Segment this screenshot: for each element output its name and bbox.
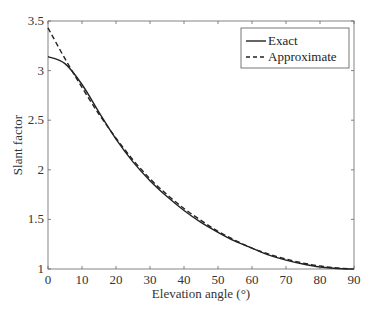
legend-item-exact: Exact	[268, 33, 298, 48]
y-tick-label: 2.5	[28, 112, 44, 127]
x-tick-label: 70	[280, 272, 293, 287]
x-tick-label: 80	[314, 272, 327, 287]
y-tick-label: 2	[38, 162, 45, 177]
y-tick-label: 1	[38, 261, 45, 276]
y-tick-label: 1.5	[28, 211, 44, 226]
slant-factor-chart: 0102030405060708090 11.522.533.5 Elevati…	[0, 0, 375, 312]
x-tick-label: 30	[144, 272, 157, 287]
legend-item-approximate: Approximate	[268, 49, 337, 64]
y-tick-label: 3	[38, 63, 45, 78]
y-axis-label: Slant factor	[10, 114, 25, 175]
x-axis-label: Elevation angle (°)	[152, 286, 250, 301]
y-tick-label: 3.5	[28, 13, 44, 28]
x-tick-label: 90	[348, 272, 361, 287]
x-tick-label: 40	[178, 272, 191, 287]
x-tick-label: 50	[212, 272, 225, 287]
exact-series-line	[48, 57, 354, 269]
x-tick-label: 0	[45, 272, 52, 287]
legend: Exact Approximate	[241, 28, 349, 68]
x-tick-label: 10	[76, 272, 89, 287]
x-tick-label: 60	[246, 272, 259, 287]
x-tick-label: 20	[110, 272, 123, 287]
